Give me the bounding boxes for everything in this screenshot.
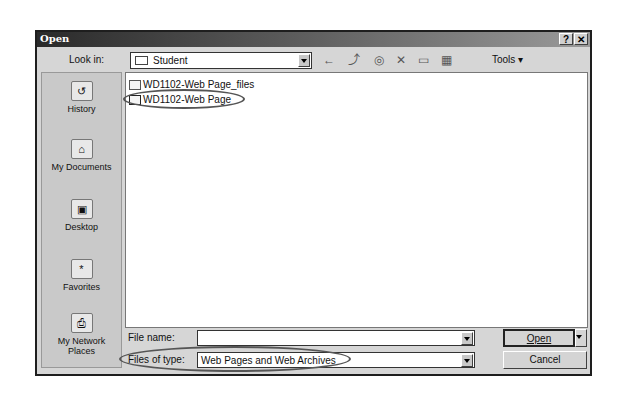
place-label: History	[67, 104, 95, 114]
delete-icon[interactable]: ✕	[394, 53, 408, 67]
my-documents-icon: ⌂	[71, 139, 93, 159]
favorites-icon: *	[71, 259, 93, 279]
chevron-down-icon[interactable]	[461, 354, 473, 367]
place-my-documents[interactable]: ⌂ My Documents	[42, 139, 121, 172]
chevron-down-icon[interactable]	[298, 54, 310, 67]
place-label: Favorites	[63, 282, 100, 292]
dialog-title: Open	[40, 33, 69, 44]
place-label: My Network Places	[57, 336, 107, 356]
network-places-icon: ⎙	[71, 313, 93, 333]
close-button[interactable]: ✕	[574, 33, 588, 45]
look-in-dropdown[interactable]: Student	[130, 52, 312, 69]
file-name-label: File name:	[128, 332, 175, 343]
search-web-icon[interactable]: ◎	[372, 53, 386, 67]
open-button[interactable]: Open	[503, 329, 575, 347]
highlight-oval	[123, 89, 245, 109]
look-in-label: Look in:	[69, 54, 104, 65]
views-icon[interactable]: ▦	[439, 53, 453, 67]
title-bar: Open ? ✕	[37, 32, 590, 47]
new-folder-icon[interactable]: ▭	[416, 53, 430, 67]
file-name-input[interactable]	[197, 330, 475, 346]
open-dialog: Open ? ✕ Look in: Student ← ⤴ ◎ ✕ ▭ ▦ To…	[35, 30, 592, 376]
place-my-network-places[interactable]: ⎙ My Network Places	[42, 313, 121, 356]
back-icon[interactable]: ←	[322, 53, 336, 67]
highlight-oval	[119, 346, 351, 372]
tools-menu[interactable]: Tools ▾	[492, 54, 523, 65]
place-desktop[interactable]: ▣ Desktop	[42, 199, 121, 232]
chevron-down-icon[interactable]	[461, 332, 473, 345]
look-in-value: Student	[153, 55, 187, 66]
desktop-icon: ▣	[71, 199, 93, 219]
folder-icon	[129, 80, 141, 90]
file-list: WD1102-Web Page_files WD1102-Web Page	[125, 72, 588, 328]
place-label: My Documents	[51, 162, 111, 172]
place-favorites[interactable]: * Favorites	[42, 259, 121, 292]
open-options-button[interactable]	[575, 329, 587, 347]
history-icon: ↺	[71, 81, 93, 101]
places-bar: ↺ History ⌂ My Documents ▣ Desktop * Fav…	[41, 72, 122, 368]
place-history[interactable]: ↺ History	[42, 81, 121, 114]
help-button[interactable]: ?	[559, 33, 573, 45]
chevron-down-icon	[574, 331, 586, 344]
place-label: Desktop	[65, 222, 98, 232]
folder-icon	[135, 56, 148, 65]
up-folder-icon[interactable]: ⤴	[347, 53, 361, 67]
cancel-button[interactable]: Cancel	[503, 351, 587, 369]
